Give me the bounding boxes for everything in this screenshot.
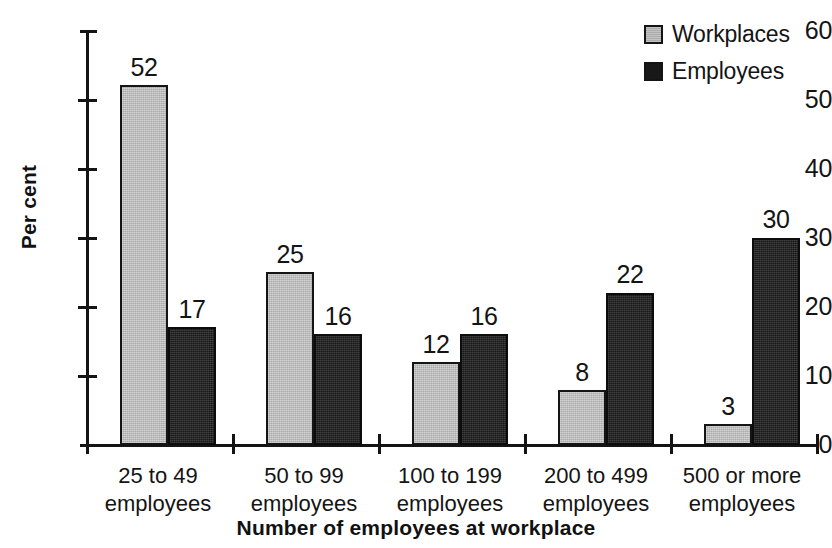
x-axis-title: Number of employees at workplace — [0, 516, 832, 540]
bar-value-employees-25-to-49: 17 — [158, 297, 226, 322]
bar-chart: Per cent 60 50 40 30 20 10 0 52 17 25 16… — [0, 0, 832, 548]
x-category-line2: employees — [85, 490, 231, 518]
bar-workplaces-100-to-199[interactable] — [412, 362, 460, 445]
bar-value-workplaces-100-to-199: 12 — [402, 332, 470, 357]
bar-value-employees-500-or-more: 30 — [742, 207, 810, 232]
x-category-label-100-to-199: 100 to 199 employees — [377, 462, 523, 518]
x-category-label-25-to-49: 25 to 49 employees — [85, 462, 231, 518]
y-axis-title: Per cent — [17, 122, 41, 292]
bar-workplaces-200-to-499[interactable] — [558, 390, 606, 445]
x-category-line2: employees — [669, 490, 815, 518]
bar-value-workplaces-25-to-49: 52 — [110, 55, 178, 80]
bar-value-workplaces-50-to-99: 25 — [256, 242, 324, 267]
legend-swatch-icon-workplaces — [644, 25, 663, 44]
bar-value-employees-50-to-99: 16 — [304, 304, 372, 329]
bar-value-workplaces-500-or-more: 3 — [694, 394, 762, 419]
bar-workplaces-50-to-99[interactable] — [266, 272, 314, 445]
bar-value-employees-100-to-199: 16 — [450, 304, 518, 329]
x-category-line1: 25 to 49 — [118, 463, 198, 488]
x-category-line1: 50 to 99 — [264, 463, 344, 488]
legend-label-workplaces: Workplaces — [672, 23, 790, 46]
legend-swatch-icon-employees — [644, 62, 663, 81]
x-category-line2: employees — [231, 490, 377, 518]
legend-item-employees[interactable]: Employees — [644, 59, 790, 83]
x-category-line1: 200 to 499 — [544, 463, 648, 488]
bar-value-workplaces-200-to-499: 8 — [548, 360, 616, 385]
x-category-label-500-or-more: 500 or more employees — [669, 462, 815, 518]
bar-workplaces-25-to-49[interactable] — [120, 85, 168, 445]
chart-legend: Workplaces Employees — [644, 22, 790, 96]
x-category-label-50-to-99: 50 to 99 employees — [231, 462, 377, 518]
x-category-line2: employees — [377, 490, 523, 518]
legend-label-employees: Employees — [672, 60, 784, 83]
x-category-line1: 100 to 199 — [398, 463, 502, 488]
x-category-label-200-to-499: 200 to 499 employees — [523, 462, 669, 518]
bar-employees-25-to-49[interactable] — [168, 327, 216, 445]
bar-workplaces-500-or-more[interactable] — [704, 424, 752, 445]
x-category-line2: employees — [523, 490, 669, 518]
legend-item-workplaces[interactable]: Workplaces — [644, 22, 790, 46]
x-category-line1: 500 or more — [683, 463, 802, 488]
bar-employees-50-to-99[interactable] — [314, 334, 362, 445]
bar-value-employees-200-to-499: 22 — [596, 262, 664, 287]
